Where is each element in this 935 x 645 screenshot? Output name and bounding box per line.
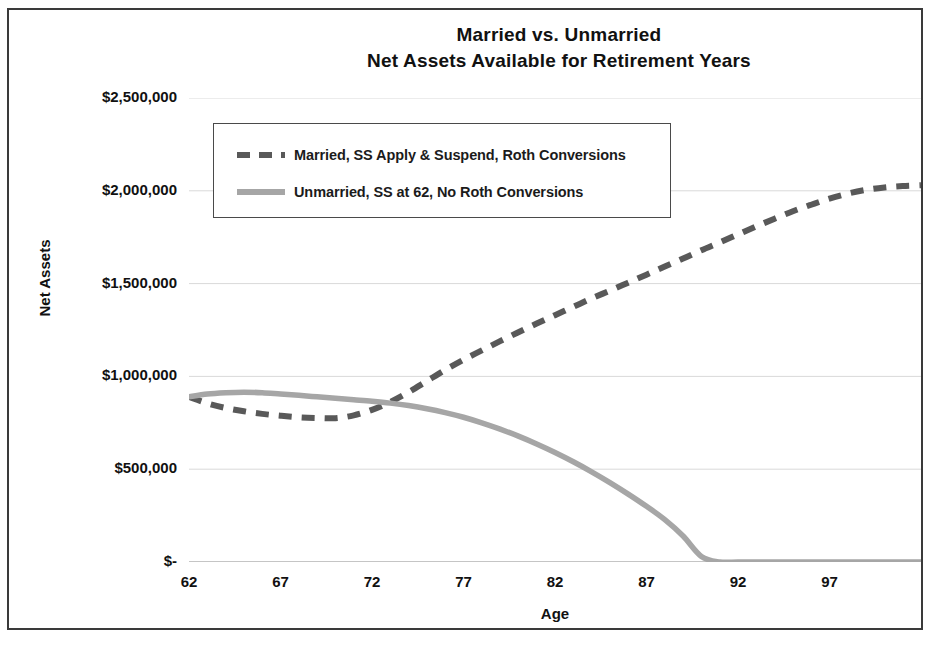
legend-item-unmarried: Unmarried, SS at 62, No Roth Conversions [236,181,583,203]
y-axis-title: Net Assets [36,208,53,348]
y-axis-tick-label: $1,500,000 [57,274,177,291]
legend-label-unmarried: Unmarried, SS at 62, No Roth Conversions [294,184,583,200]
y-axis-tick-label: $500,000 [57,459,177,476]
chart-page: Married vs. Unmarried Net Assets Availab… [0,0,935,645]
legend-item-married: Married, SS Apply & Suspend, Roth Conver… [236,144,626,166]
x-axis-title: Age [189,605,921,622]
x-axis-tick-label: 62 [159,573,219,590]
series-line-unmarried [189,392,921,562]
y-axis-tick-label: $2,500,000 [57,88,177,105]
chart-title-line-2: Net Assets Available for Retirement Year… [189,48,929,74]
legend-label-married: Married, SS Apply & Suspend, Roth Conver… [294,147,626,163]
x-axis-tick-label: 97 [800,573,860,590]
x-axis-tick-label: 92 [708,573,768,590]
x-axis-tick-label: 77 [434,573,494,590]
data-series-layer [189,185,921,562]
chart-title-line-1: Married vs. Unmarried [457,24,662,45]
legend-key-solid-icon [236,185,286,199]
x-axis-tick-label: 67 [251,573,311,590]
chart-legend: Married, SS Apply & Suspend, Roth Conver… [213,123,671,218]
x-axis-tick-label: 82 [525,573,585,590]
x-axis-tick-label: 72 [342,573,402,590]
x-axis-tick-label: 87 [617,573,677,590]
chart-frame: Married vs. Unmarried Net Assets Availab… [7,8,923,630]
chart-title: Married vs. Unmarried Net Assets Availab… [189,22,929,74]
y-axis-tick-label: $1,000,000 [57,366,177,383]
y-axis-tick-label: $- [57,552,177,569]
legend-key-dashed-icon [236,148,286,162]
series-line-married [189,185,921,418]
y-axis-tick-label: $2,000,000 [57,181,177,198]
